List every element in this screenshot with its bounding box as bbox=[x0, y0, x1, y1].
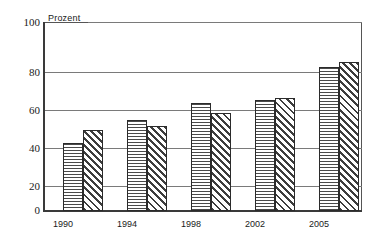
bar-1990-series-1 bbox=[63, 143, 83, 211]
y-axis-ticks: 100 80 60 40 20 0 bbox=[0, 0, 40, 247]
x-tick-label-2005: 2005 bbox=[289, 219, 349, 229]
y-tick-label-20: 20 bbox=[2, 181, 40, 192]
bar-group-2002 bbox=[255, 22, 295, 211]
bar-group-1990 bbox=[63, 22, 103, 211]
bar-1994-series-2 bbox=[147, 126, 167, 211]
x-tick-label-1990: 1990 bbox=[33, 219, 93, 229]
x-tick-label-2002: 2002 bbox=[225, 219, 285, 229]
bar-1998-series-2 bbox=[211, 113, 231, 211]
bar-2005-series-1 bbox=[319, 67, 339, 211]
bar-2005-series-2 bbox=[339, 62, 359, 211]
x-tick-label-1998: 1998 bbox=[161, 219, 221, 229]
y-tick-label-80: 80 bbox=[2, 67, 40, 78]
bar-2002-series-2 bbox=[275, 98, 295, 211]
bar-1994-series-1 bbox=[127, 120, 147, 211]
bar-group-2005 bbox=[319, 22, 359, 211]
bar-2002-series-1 bbox=[255, 100, 275, 212]
y-tick-label-100: 100 bbox=[2, 17, 40, 28]
x-tick-label-1994: 1994 bbox=[97, 219, 157, 229]
y-tick-label-60: 60 bbox=[2, 105, 40, 116]
plot-area bbox=[45, 22, 362, 211]
bar-group-1994 bbox=[127, 22, 167, 211]
y-tick-label-40: 40 bbox=[2, 143, 40, 154]
bar-group-1998 bbox=[191, 22, 231, 211]
y-tick-label-0: 0 bbox=[2, 205, 40, 216]
bar-1990-series-2 bbox=[83, 130, 103, 211]
bar-1998-series-1 bbox=[191, 103, 211, 211]
bar-chart: Prozent 100 80 60 40 20 0 bbox=[0, 0, 383, 247]
